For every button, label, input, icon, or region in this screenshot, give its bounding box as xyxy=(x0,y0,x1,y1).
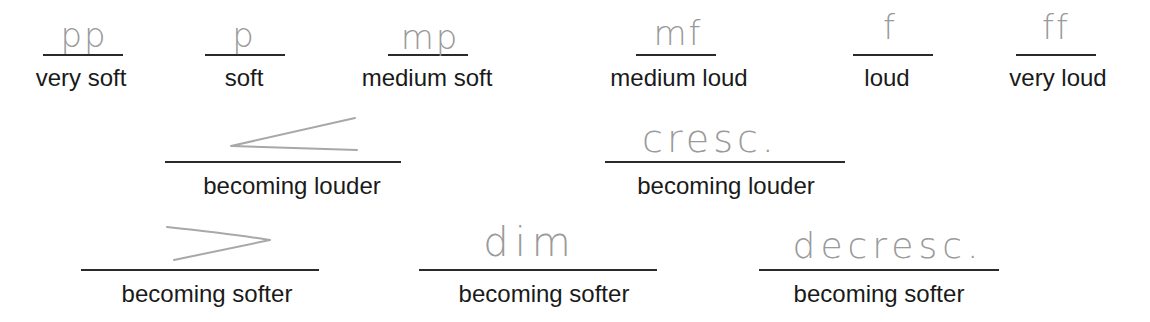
answer-line-cresc xyxy=(605,161,845,163)
answer-line-crescendo-hairpin xyxy=(165,161,401,163)
handwritten-mark-mf: mf xyxy=(653,16,702,50)
dynamic-label: loud xyxy=(864,66,909,90)
handwritten-mark-ff: ff xyxy=(1042,10,1070,44)
answer-line-ff xyxy=(1016,54,1096,56)
handwritten-mark-p: p xyxy=(232,18,256,52)
dynamic-label: very soft xyxy=(36,66,127,90)
handwritten-mark-cresc: cresc. xyxy=(642,120,778,158)
dynamic-label: becoming softer xyxy=(122,282,293,306)
answer-line-decrescendo-hairpin xyxy=(81,269,319,271)
dynamic-label: medium soft xyxy=(362,66,493,90)
answer-line-decresc xyxy=(759,269,999,271)
dynamic-label: becoming louder xyxy=(637,174,814,198)
handwritten-mark-pp: pp xyxy=(60,18,107,52)
handwritten-mark-decresc: decresc. xyxy=(793,228,984,264)
handwritten-mark-mp: mp xyxy=(401,20,460,54)
dynamic-label: soft xyxy=(225,66,264,90)
crescendo-hairpin-icon xyxy=(225,115,360,155)
handwritten-mark-f: f xyxy=(883,10,897,44)
dynamic-label: very loud xyxy=(1009,66,1106,90)
handwritten-mark-dim: dim xyxy=(483,222,576,262)
answer-line-dim xyxy=(419,269,657,271)
decrescendo-hairpin-icon xyxy=(142,222,292,267)
dynamic-label: becoming softer xyxy=(794,282,965,306)
answer-line-f xyxy=(853,54,933,56)
dynamic-label: becoming softer xyxy=(459,282,630,306)
dynamic-label: becoming louder xyxy=(203,174,380,198)
dynamic-label: medium loud xyxy=(610,66,747,90)
answer-line-mf xyxy=(636,54,716,56)
